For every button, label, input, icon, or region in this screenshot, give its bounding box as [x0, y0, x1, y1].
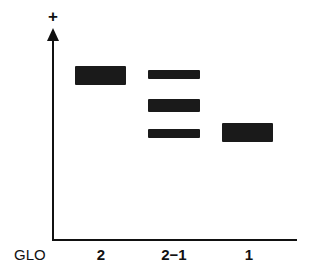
band: [148, 129, 200, 138]
x-axis: [52, 239, 297, 241]
row-label: GLO: [14, 246, 46, 264]
band: [148, 99, 200, 112]
band: [148, 70, 200, 79]
lane-label-2: 2: [81, 246, 121, 264]
band: [75, 66, 126, 85]
band: [222, 123, 273, 142]
lane-label-1: 1: [229, 246, 269, 264]
lane-label-2-1: 2−1: [154, 246, 194, 264]
positive-pole-label: +: [46, 8, 60, 25]
y-axis: [52, 36, 54, 241]
